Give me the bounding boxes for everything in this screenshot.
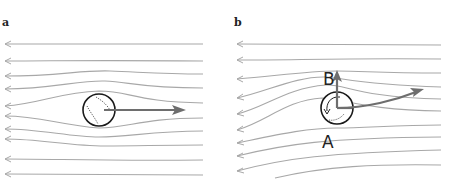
panel-a: a: [0, 0, 226, 184]
point-label-a: A: [322, 134, 334, 151]
panel-b: b: [226, 0, 452, 184]
streamline-arrowheads: [237, 41, 244, 173]
streamlines-diagram-b: [226, 0, 452, 184]
point-label-b: B: [323, 71, 335, 88]
streamlines-diagram-a: [0, 0, 226, 184]
velocity-arrow: [104, 105, 186, 115]
